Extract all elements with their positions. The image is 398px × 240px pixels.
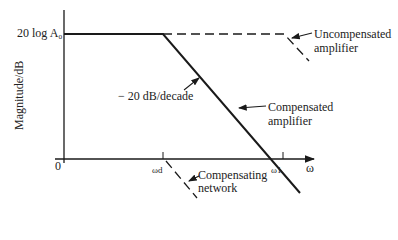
compensated-arrow [239,106,266,108]
slope-annotation: − 20 dB/decade [118,90,193,103]
compensated-label-line2: amplifier [268,115,312,128]
x-tick-label-omega-d: ωd [152,164,162,177]
x-tick-label-omega-1: ω1 [271,164,281,177]
network-label-line2: network [198,182,237,195]
x-axis-label: ω [306,162,314,175]
compensated-label-line1: Compensated [268,101,333,114]
uncompensated-label-line2: amplifier [314,42,358,55]
origin-label: 0 [55,160,61,173]
y-tick-label-gain: 20 log A₀ [17,27,63,40]
uncompensated-curve [163,34,309,61]
y-axis-label: Magnitude/dB [12,61,27,130]
uncompensated-arrow [292,33,312,38]
uncompensated-label-line1: Uncompensated [314,28,391,41]
